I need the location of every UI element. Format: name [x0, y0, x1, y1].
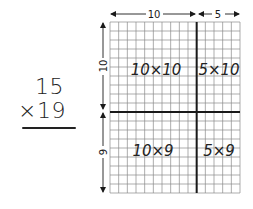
left-dimension-label-9: 9 [98, 149, 109, 155]
region-bottom-right-label: 5×9 [203, 142, 235, 160]
region-labels: 10×10 5×10 10×9 5×9 [131, 60, 240, 160]
top-dimension-10: 10 [111, 9, 195, 20]
grid-lines [110, 22, 240, 193]
region-bottom-left-label: 10×9 [132, 142, 173, 160]
region-top-left-label: 10×10 [131, 61, 182, 79]
top-dimension-label-5: 5 [215, 9, 221, 20]
top-dimension-label-10: 10 [148, 9, 161, 20]
left-dimension-label-10: 10 [98, 60, 109, 73]
left-dimension-10: 10 [98, 23, 109, 109]
region-top-right-label: 5×10 [198, 61, 239, 79]
top-dimension-5: 5 [199, 9, 239, 20]
area-model-diagram: 10 5 10 9 10×10 5×10 10×9 5×9 [0, 0, 253, 209]
left-dimension-9: 9 [98, 113, 109, 192]
